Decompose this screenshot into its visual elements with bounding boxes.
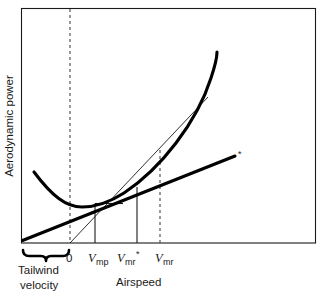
- tick-label-vmr-star: V mr *: [117, 249, 140, 267]
- tick-label-vmr: V mr: [155, 251, 174, 267]
- tailwind-brace: [23, 250, 69, 261]
- tick-zero-text: 0: [66, 252, 72, 264]
- tailwind-velocity-label-line2: velocity: [20, 279, 59, 291]
- tick-vmr-star-asterisk: *: [136, 249, 140, 259]
- y-axis-title: Aerodynamic power: [3, 75, 15, 177]
- tangent-end-asterisk-marker: *: [238, 149, 242, 159]
- tick-label-zero: 0: [66, 252, 72, 264]
- x-axis-title: Airspeed: [116, 276, 161, 288]
- chart-svg: * 0 V mp V mr * V mr Tailwind velocity A…: [0, 0, 324, 293]
- aerodynamic-power-figure: * 0 V mp V mr * V mr Tailwind velocity A…: [0, 0, 324, 293]
- tick-vmp-subscript: mp: [96, 257, 109, 267]
- tick-label-vmp: V mp: [88, 251, 109, 267]
- plot-frame: [22, 9, 316, 244]
- tailwind-velocity-label-line1: Tailwind: [18, 264, 59, 276]
- tick-vmr-star-subscript: mr: [125, 257, 136, 267]
- tick-vmr-subscript: mr: [163, 257, 174, 267]
